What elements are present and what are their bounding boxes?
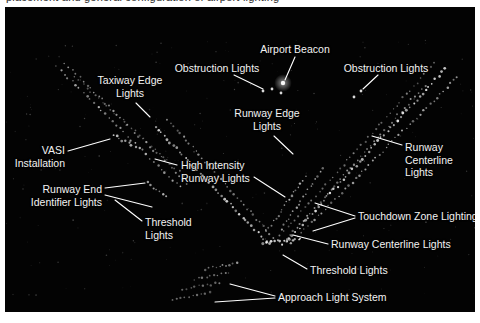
label-vasi-installation: VASI Installation: [15, 144, 65, 169]
label-obstruction-lights-right: Obstruction Lights: [151, 62, 475, 75]
label-threshold-lights-left: Threshold Lights: [145, 216, 192, 241]
label-threshold-lights-bottom: Threshold Lights: [310, 264, 388, 277]
label-runway-centerline-lights-bottom: Runway Centerline Lights: [331, 238, 451, 251]
label-airport-beacon: Airport Beacon: [60, 43, 475, 56]
cropped-caption-text: placement and general configuration of a…: [6, 0, 279, 3]
label-touchdown-zone-lighting: Touchdown Zone Lighting: [358, 210, 475, 223]
label-approach-light-system: Approach Light System: [278, 291, 387, 304]
label-taxiway-edge-lights: Taxiway Edge Lights: [5, 74, 365, 99]
night-airport-photograph: Taxiway Edge LightsObstruction LightsAir…: [5, 7, 475, 312]
cropped-caption-sliver: placement and general configuration of a…: [0, 0, 480, 6]
airport-lighting-figure: placement and general configuration of a…: [0, 0, 480, 323]
label-high-intensity-runway-lights: High Intensity Runway Lights: [181, 159, 250, 184]
label-runway-edge-lights: Runway Edge Lights: [32, 107, 475, 132]
label-runway-centerline-lights-right: Runway Centerline Lights: [405, 141, 453, 179]
label-runway-end-identifier-lights: Runway End Identifier Lights: [31, 183, 102, 208]
annotation-labels: Taxiway Edge LightsObstruction LightsAir…: [5, 7, 475, 312]
